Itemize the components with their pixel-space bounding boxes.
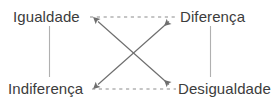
node-label-desigualdade: Desigualdade xyxy=(178,81,271,96)
node-label-diferenca: Diferença xyxy=(180,9,245,24)
semiotic-square-diagram: Igualdade Diferença Indiferença Desigual… xyxy=(0,0,279,107)
node-label-igualdade: Igualdade xyxy=(13,9,80,24)
node-label-indiferenca: Indiferença xyxy=(8,81,83,96)
